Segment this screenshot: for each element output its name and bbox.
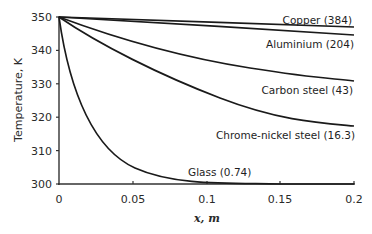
temperature-chart: 350 340 330 320 310 300 0 0.05 0.1 0.15 … bbox=[0, 0, 372, 234]
x-axis-title: x, m bbox=[193, 212, 220, 225]
aluminium-label: Aluminium (204) bbox=[266, 38, 354, 50]
copper-label: Copper (384) bbox=[283, 14, 352, 26]
carbon-steel-label: Carbon steel (43) bbox=[262, 84, 353, 96]
chrome-nickel-label: Chrome-nickel steel (16.3) bbox=[216, 129, 355, 141]
x-tick-label: 0 bbox=[56, 193, 63, 206]
y-tick-label: 300 bbox=[31, 178, 52, 191]
chrome-nickel-line bbox=[59, 17, 354, 126]
y-tick-label: 310 bbox=[31, 145, 52, 158]
x-tick-label: 0.2 bbox=[345, 193, 363, 206]
y-axis-title: Temperature, K bbox=[12, 57, 25, 143]
x-tick-label: 0.05 bbox=[121, 193, 146, 206]
y-tick-label: 350 bbox=[31, 11, 52, 24]
y-tick-labels: 350 340 330 320 310 300 bbox=[31, 11, 52, 191]
y-tick-label: 340 bbox=[31, 44, 52, 57]
y-tick-label: 320 bbox=[31, 111, 52, 124]
glass-label: Glass (0.74) bbox=[188, 166, 251, 178]
x-tick-label: 0.1 bbox=[198, 193, 216, 206]
y-tick-label: 330 bbox=[31, 78, 52, 91]
x-tick-label: 0.15 bbox=[268, 193, 293, 206]
x-tick-labels: 0 0.05 0.1 0.15 0.2 bbox=[56, 193, 363, 206]
